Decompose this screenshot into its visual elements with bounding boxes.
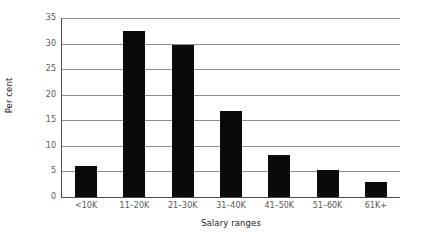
- bar: [220, 111, 242, 197]
- x-tick-label: 31–40K: [207, 201, 255, 211]
- y-tick-label: 20: [34, 91, 56, 99]
- x-axis-tick-labels: <10K11–20K21–30K31–40K41–50K51–60K61K+: [62, 201, 400, 215]
- bar-chart-figure: Per cent 35302520151050 <10K11–20K21–30K…: [0, 0, 421, 239]
- x-tick-label: 51–60K: [303, 201, 351, 211]
- y-tick-label: 10: [34, 142, 56, 150]
- y-axis-title: Per cent: [0, 0, 18, 239]
- bar: [172, 45, 194, 197]
- y-tick-label: 35: [34, 14, 56, 22]
- x-tick-label: 61K+: [352, 201, 400, 211]
- bar: [365, 182, 387, 197]
- x-axis-title: Salary ranges: [62, 218, 400, 228]
- y-axis-title-label: Per cent: [4, 78, 14, 114]
- y-axis-tick-labels: 35302520151050: [32, 18, 56, 197]
- bars-layer: [62, 18, 400, 197]
- x-tick-label: 41–50K: [255, 201, 303, 211]
- y-tick-label: 15: [34, 116, 56, 124]
- x-axis-line: [61, 197, 400, 198]
- y-tick-label: 25: [34, 65, 56, 73]
- y-tick-label: 30: [34, 40, 56, 48]
- x-tick-label: 11–20K: [110, 201, 158, 211]
- bar: [123, 31, 145, 197]
- x-tick-label: 21–30K: [159, 201, 207, 211]
- x-tick-label: <10K: [62, 201, 110, 211]
- y-tick-label: 5: [34, 167, 56, 175]
- bar: [75, 166, 97, 197]
- bar: [317, 170, 339, 197]
- y-tick-label: 0: [34, 193, 56, 201]
- bar: [268, 155, 290, 197]
